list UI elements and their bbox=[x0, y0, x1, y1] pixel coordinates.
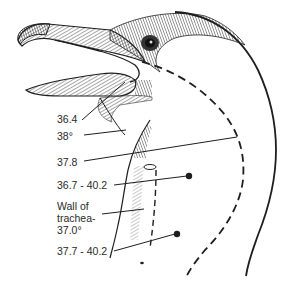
leader-37-8 bbox=[84, 137, 237, 161]
label-37-7-40-2: 37.7 - 40.2 bbox=[57, 245, 107, 257]
label-36-4: 36.4 bbox=[57, 113, 77, 125]
esophagus-dashed bbox=[142, 62, 243, 278]
label-trachea: trachea- bbox=[57, 212, 96, 224]
label-38: 38° bbox=[57, 130, 73, 142]
label-37-8: 37.8 bbox=[57, 156, 77, 168]
label-36-7-40-2: 36.7 - 40.2 bbox=[57, 179, 107, 191]
bird-head-illustration bbox=[0, 0, 288, 288]
lower-bill bbox=[26, 73, 136, 96]
trachea-dashed bbox=[150, 170, 156, 248]
leader-36-7 bbox=[114, 176, 187, 185]
label-wall-of: Wall of bbox=[57, 200, 89, 212]
leader-38 bbox=[84, 130, 126, 135]
bill-hook bbox=[18, 24, 50, 44]
neck-hatch-lower bbox=[130, 166, 144, 240]
leader-37-7 bbox=[114, 234, 175, 251]
throat-patch bbox=[135, 80, 152, 97]
trachea-opening bbox=[144, 165, 156, 170]
label-trachea-temp: 37.0° bbox=[57, 224, 82, 236]
marker-dot-small bbox=[140, 262, 144, 264]
eye-icon bbox=[141, 35, 159, 51]
